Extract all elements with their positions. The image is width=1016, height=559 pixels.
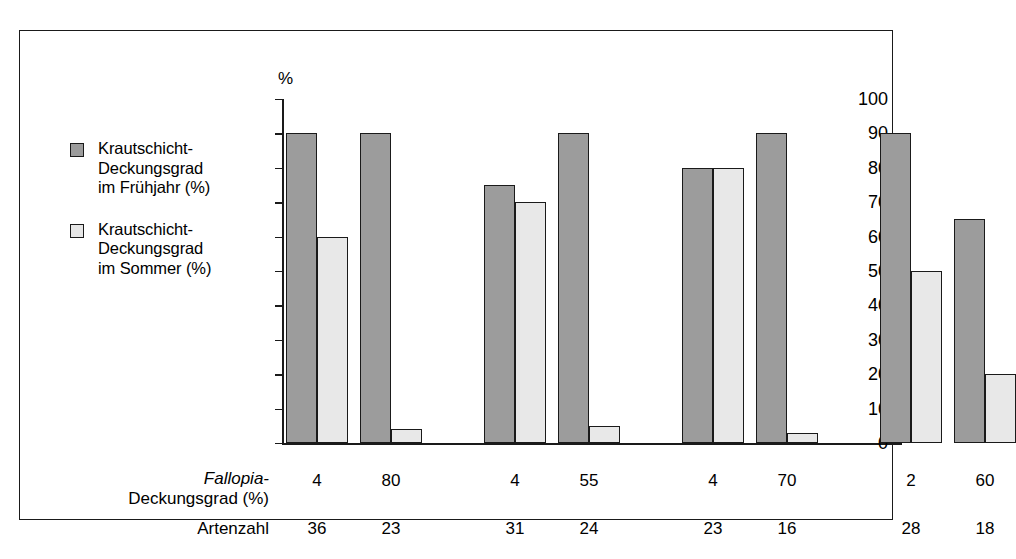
bar-spring xyxy=(484,185,515,443)
artenzahl-value: 23 xyxy=(368,520,414,537)
artenzahl-row-label: Artenzahl xyxy=(44,519,269,539)
y-tick-mark xyxy=(275,271,282,272)
y-tick-mark xyxy=(275,168,282,169)
fallopia-value: 80 xyxy=(368,472,414,489)
fallopia-row-label: Fallopia- Deckungsgrad (%) xyxy=(44,469,269,509)
artenzahl-value: 31 xyxy=(492,520,538,537)
legend-entry: Krautschicht- Deckungsgrad im Frühjahr (… xyxy=(70,139,260,198)
bar-spring xyxy=(682,168,713,443)
y-tick-mark xyxy=(275,133,282,134)
fallopia-value: 55 xyxy=(566,472,612,489)
bar-spring xyxy=(286,133,317,443)
chart-legend: Krautschicht- Deckungsgrad im Frühjahr (… xyxy=(70,139,260,300)
artenzahl-value: 16 xyxy=(764,520,810,537)
y-tick-mark xyxy=(275,443,282,444)
artenzahl-value: 28 xyxy=(888,520,934,537)
bar-spring xyxy=(756,133,787,443)
fallopia-italic-label: Fallopia- xyxy=(204,469,269,488)
plot-area: 1009080706050403020100 xyxy=(282,99,902,443)
bar-summer xyxy=(713,168,744,443)
legend-label: Krautschicht- Deckungsgrad im Frühjahr (… xyxy=(98,139,210,196)
x-axis-baseline xyxy=(282,443,902,445)
legend-swatch-light xyxy=(70,224,84,238)
y-tick-mark xyxy=(275,409,282,410)
y-tick-mark xyxy=(275,340,282,341)
y-tick-mark xyxy=(275,202,282,203)
y-tick-label: 100 xyxy=(846,90,888,108)
fallopia-value: 4 xyxy=(294,472,340,489)
legend-entry: Krautschicht- Deckungsgrad im Sommer (%) xyxy=(70,220,260,279)
bar-spring xyxy=(954,219,985,443)
bar-summer xyxy=(787,433,818,443)
legend-swatch-dark xyxy=(70,143,84,157)
fallopia-value: 4 xyxy=(492,472,538,489)
artenzahl-value: 23 xyxy=(690,520,736,537)
legend-label: Krautschicht- Deckungsgrad im Sommer (%) xyxy=(98,220,211,277)
bar-spring xyxy=(558,133,589,443)
bar-spring xyxy=(360,133,391,443)
artenzahl-value: 24 xyxy=(566,520,612,537)
chart-frame: Krautschicht- Deckungsgrad im Frühjahr (… xyxy=(19,30,893,520)
bar-summer xyxy=(985,374,1016,443)
fallopia-value: 2 xyxy=(888,472,934,489)
y-axis-line xyxy=(282,99,284,443)
fallopia-value: 60 xyxy=(962,472,1008,489)
y-tick-mark xyxy=(275,99,282,100)
artenzahl-value: 18 xyxy=(962,520,1008,537)
bar-summer xyxy=(317,237,348,443)
bar-summer xyxy=(391,429,422,443)
y-axis-unit-label: % xyxy=(278,69,293,89)
bar-spring xyxy=(880,133,911,443)
fallopia-value: 70 xyxy=(764,472,810,489)
artenzahl-value: 36 xyxy=(294,520,340,537)
y-tick-mark xyxy=(275,374,282,375)
fallopia-value: 4 xyxy=(690,472,736,489)
y-tick-mark xyxy=(275,305,282,306)
bar-summer xyxy=(911,271,942,443)
bar-summer xyxy=(515,202,546,443)
y-tick-mark xyxy=(275,237,282,238)
fallopia-rest-label: Deckungsgrad (%) xyxy=(128,489,269,508)
bar-summer xyxy=(589,426,620,443)
